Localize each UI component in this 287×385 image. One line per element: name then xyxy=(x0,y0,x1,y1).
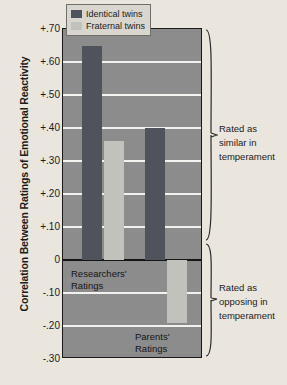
y-axis-tick-7: 0 xyxy=(26,254,60,265)
y-axis-tick-4: +.30 xyxy=(26,155,60,166)
annotation-similar-line1: Rated as xyxy=(219,123,257,134)
bar-fraternal-parents xyxy=(167,260,187,323)
annotation-opposing-line3: temperament xyxy=(219,310,275,321)
y-axis-tick-1: +.60 xyxy=(26,56,60,67)
annotation-rated-opposing: Rated as opposing in temperament xyxy=(219,281,275,322)
chart-legend: Identical twins Fraternal twins xyxy=(66,4,151,36)
brace-similar-icon xyxy=(204,28,218,242)
legend-item-fraternal-twins: Fraternal twins xyxy=(71,20,145,32)
bar-identical-researchers xyxy=(82,46,102,261)
y-axis-tick-3: +.40 xyxy=(26,122,60,133)
annotation-opposing-line1: Rated as xyxy=(219,282,257,293)
y-axis-tick-10: -.30 xyxy=(26,353,60,364)
group-label-parents-line1: Parents' xyxy=(135,331,170,342)
legend-swatch-identical-icon xyxy=(71,10,82,18)
y-axis-tick-0: +.70 xyxy=(26,23,60,34)
legend-item-identical-twins: Identical twins xyxy=(71,8,145,20)
group-label-researchers: Researchers' Ratings xyxy=(71,268,127,292)
annotation-rated-similar: Rated as similar in temperament xyxy=(219,122,275,163)
gridline-9 xyxy=(63,325,201,327)
annotation-opposing-line2: opposing in xyxy=(219,296,268,307)
group-label-parents: Parents' Ratings xyxy=(135,331,170,355)
annotation-similar-line2: similar in xyxy=(219,137,256,148)
y-axis-tick-8: -.10 xyxy=(26,287,60,298)
y-axis-tick-2: +.50 xyxy=(26,89,60,100)
group-label-parents-line2: Ratings xyxy=(135,343,167,354)
legend-label-identical-twins: Identical twins xyxy=(86,8,143,20)
brace-opposing-icon xyxy=(204,242,218,358)
chart-figure: Correlation Between Ratings of Emotional… xyxy=(0,0,287,385)
bar-identical-parents xyxy=(145,128,165,260)
y-axis-tick-9: -.20 xyxy=(26,320,60,331)
plot-area: Researchers' Ratings Parents' Ratings xyxy=(62,28,202,358)
legend-swatch-fraternal-icon xyxy=(71,22,82,30)
y-axis-tick-5: +.20 xyxy=(26,188,60,199)
y-axis-tick-labels: +.70+.60+.50+.40+.30+.20+.100-.10-.20-.3… xyxy=(26,28,60,358)
bar-fraternal-researchers xyxy=(104,141,124,260)
y-axis-tick-6: +.10 xyxy=(26,221,60,232)
legend-label-fraternal-twins: Fraternal twins xyxy=(86,20,145,32)
group-label-researchers-line2: Ratings xyxy=(71,280,103,291)
group-label-researchers-line1: Researchers' xyxy=(71,268,127,279)
annotation-similar-line3: temperament xyxy=(219,151,275,162)
